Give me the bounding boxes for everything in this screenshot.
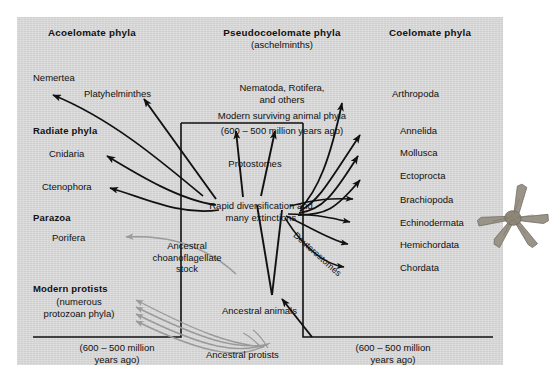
taxon-brachiopoda: Brachiopoda: [400, 194, 453, 206]
center-protostomes: Protostomes: [218, 158, 292, 170]
center-ancestral-protists: Ancestral protists: [206, 349, 279, 361]
taxon-mollusca: Mollusca: [400, 147, 438, 159]
header-acoelomate-phyla: Acoelomate phyla: [48, 27, 136, 39]
group-parazoa: Parazoa: [33, 212, 71, 224]
taxon-echinodermata: Echinodermata: [400, 217, 464, 229]
group-modern-protists: Modern protists: [33, 283, 108, 295]
taxon-hemichordata: Hemichordata: [400, 239, 459, 251]
header-pseudocoelomate-phyla: Pseudocoelomate phyla: [212, 27, 352, 39]
starfish-icon: [477, 180, 549, 254]
header-coelomate-phyla: Coelomate phyla: [389, 27, 471, 39]
center-ancestral-choanoflagellate-stock: Ancestral choanoflagellate stock: [141, 240, 233, 275]
taxon-platyhelminthes: Platyhelminthes: [84, 88, 151, 100]
center-modern-surviving-animal-phyla: Modern surviving animal phyla: [186, 110, 378, 122]
center-pseudocoelomate-taxa: Nematoda, Rotifera, and others: [212, 82, 352, 105]
taxon-ctenophora: Ctenophora: [42, 181, 92, 193]
taxon-porifera: Porifera: [52, 232, 85, 244]
taxon-cnidaria: Cnidaria: [49, 148, 84, 160]
taxon-ectoprocta: Ectoprocta: [400, 170, 445, 182]
center-ancestral-animals: Ancestral animals: [222, 305, 297, 317]
group-modern-protists-sub: (numerous protozoan phyla): [24, 296, 134, 319]
taxon-nemertea: Nemertea: [33, 72, 75, 84]
left-bracket-caption: (600 – 500 million years ago): [52, 342, 182, 365]
group-radiate-phyla: Radiate phyla: [33, 125, 97, 137]
taxon-arthropoda: Arthropoda: [392, 88, 439, 100]
header-pseudocoelomate-sub: (aschelminths): [212, 39, 352, 51]
right-bracket-caption: (600 – 500 million years ago): [328, 342, 458, 365]
center-modern-surviving-date: (600 – 500 million years ago): [186, 125, 378, 137]
center-rapid-diversification: Rapid diversification and many extinctio…: [198, 200, 324, 223]
taxon-chordata: Chordata: [400, 262, 439, 274]
figure-canvas: Acoelomate phyla Pseudocoelomate phyla (…: [0, 0, 552, 385]
taxon-annelida: Annelida: [400, 125, 437, 137]
